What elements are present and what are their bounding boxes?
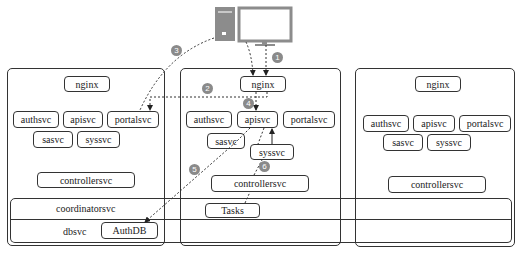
- sasvc-node: sasvc: [207, 133, 245, 149]
- step-badge-6: 6: [259, 161, 270, 172]
- apisvc-node: apisvc: [413, 115, 455, 132]
- portalsvc-node: portalsvc: [283, 111, 335, 128]
- apisvc-node: apisvc: [237, 111, 278, 128]
- controllersvc-node: controllersvc: [211, 175, 309, 192]
- syssvc-node: syssvc: [77, 131, 120, 148]
- syssvc-node: syssvc: [427, 134, 471, 151]
- controllersvc-node: controllersvc: [388, 176, 486, 193]
- sasvc-node: sasvc: [383, 134, 423, 151]
- sasvc-node: sasvc: [33, 131, 73, 148]
- coordinatorsvc-label: coordinatorsvc: [56, 203, 115, 214]
- portalsvc-node: portalsvc: [459, 115, 511, 132]
- cluster-right: [355, 68, 515, 247]
- step-badge-2: 2: [202, 83, 213, 94]
- controllersvc-node: controllersvc: [37, 172, 135, 188]
- authsvc-node: authsvc: [13, 111, 59, 128]
- authdb-node: AuthDB: [101, 222, 158, 239]
- nginx-node: nginx: [64, 76, 110, 92]
- portalsvc-node: portalsvc: [107, 111, 159, 128]
- syssvc-node: syssvc: [250, 144, 294, 160]
- apisvc-node: apisvc: [63, 111, 103, 128]
- step-badge-1: 1: [272, 52, 283, 63]
- step-badge-3: 3: [171, 45, 182, 56]
- step-badge-5: 5: [189, 164, 200, 175]
- dbsvc-label: dbsvc: [63, 226, 86, 237]
- client-computer-icon: [214, 6, 304, 46]
- step-badge-4: 4: [243, 98, 254, 109]
- nginx-node: nginx: [415, 76, 461, 92]
- tasks-node: Tasks: [205, 203, 260, 218]
- authsvc-node: authsvc: [363, 115, 409, 132]
- authsvc-node: authsvc: [186, 111, 232, 128]
- cluster-left: [7, 68, 165, 246]
- nginx-node: nginx: [240, 76, 286, 92]
